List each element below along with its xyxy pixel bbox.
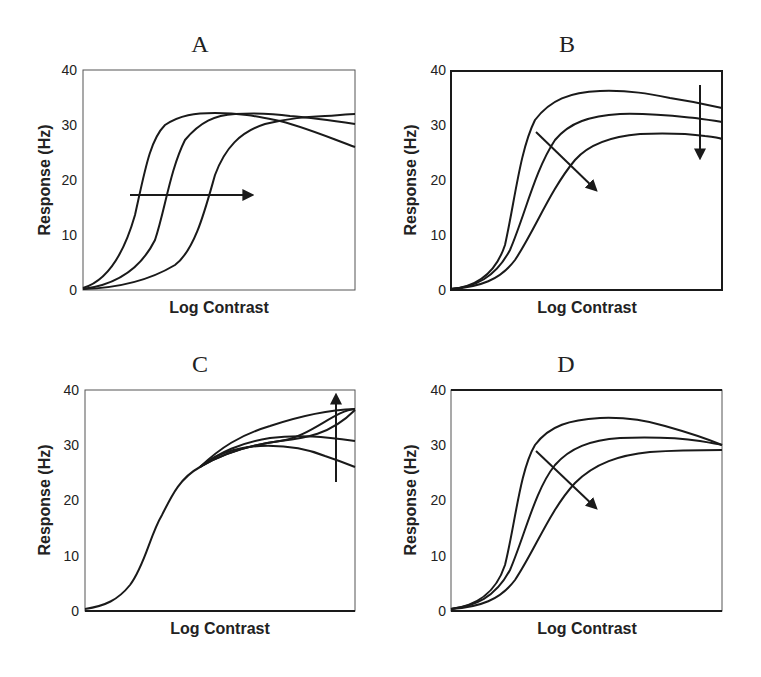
curve-3 <box>451 134 722 289</box>
y-tick: 30 <box>430 437 446 453</box>
x-axis-label: Log Contrast <box>169 299 269 316</box>
y-tick: 0 <box>71 603 79 619</box>
y-tick: 10 <box>63 548 79 564</box>
panel-title: D <box>557 351 574 377</box>
curve-3 <box>83 114 355 289</box>
x-axis-label: Log Contrast <box>537 620 637 637</box>
y-tick: 0 <box>69 282 77 298</box>
curve-2 <box>451 438 722 609</box>
y-tick: 30 <box>63 437 79 453</box>
y-tick: 0 <box>438 282 446 298</box>
x-axis-label: Log Contrast <box>537 299 637 316</box>
panel-title: B <box>559 31 575 57</box>
y-ticks: 0 10 20 30 40 <box>63 382 79 619</box>
curve-1 <box>85 409 355 609</box>
curve-1 <box>83 113 355 288</box>
y-tick: 10 <box>61 227 77 243</box>
panel-title: C <box>192 351 208 377</box>
y-tick: 30 <box>430 117 446 133</box>
y-ticks: 0 10 20 30 40 <box>430 382 446 619</box>
y-tick: 40 <box>430 62 446 78</box>
plot-frame <box>85 390 355 611</box>
panel-b: B 0 10 20 30 40 Response (Hz) Log Contra… <box>402 31 722 316</box>
curve-2 <box>83 113 355 289</box>
curve-1 <box>451 418 722 609</box>
plot-frame <box>83 70 355 290</box>
plot-frame <box>451 390 722 611</box>
figure: A 0 10 20 30 40 Response (Hz) Log Contra… <box>0 0 761 677</box>
y-tick: 20 <box>430 172 446 188</box>
y-axis-label: Response (Hz) <box>402 444 419 555</box>
y-ticks: 0 10 20 30 40 <box>61 62 77 298</box>
y-tick: 30 <box>61 117 77 133</box>
curve-1 <box>451 91 722 289</box>
panel-a: A 0 10 20 30 40 Response (Hz) Log Contra… <box>36 31 355 316</box>
y-tick: 10 <box>430 227 446 243</box>
y-tick: 20 <box>61 172 77 188</box>
curve-2 <box>451 114 722 289</box>
panel-c: C 0 10 20 30 40 Response (Hz) Log Contra… <box>36 351 355 637</box>
panel-title: A <box>191 31 209 57</box>
y-tick: 40 <box>63 382 79 398</box>
y-ticks: 0 10 20 30 40 <box>430 62 446 298</box>
arrow-down-right-icon <box>536 132 596 190</box>
y-tick: 0 <box>438 603 446 619</box>
y-tick: 40 <box>61 62 77 78</box>
y-axis-label: Response (Hz) <box>36 444 53 555</box>
y-axis-label: Response (Hz) <box>36 124 53 235</box>
y-tick: 40 <box>430 382 446 398</box>
panel-d: D 0 10 20 30 40 Response (Hz) Log Contra… <box>402 351 722 637</box>
y-tick: 20 <box>63 492 79 508</box>
y-axis-label: Response (Hz) <box>402 124 419 235</box>
x-axis-label: Log Contrast <box>170 620 270 637</box>
curve-3 <box>451 450 722 609</box>
y-tick: 20 <box>430 492 446 508</box>
y-tick: 10 <box>430 548 446 564</box>
